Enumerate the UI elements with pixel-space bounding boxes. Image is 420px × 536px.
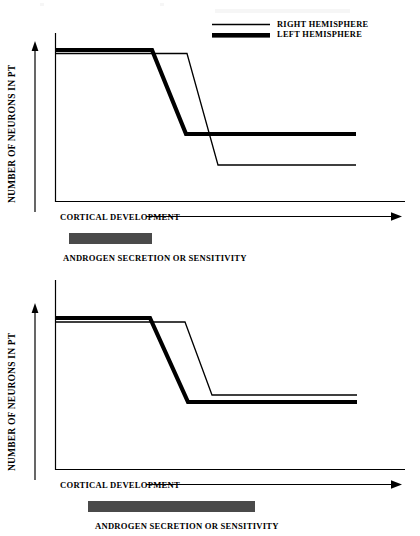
top-chart-svg bbox=[0, 0, 420, 268]
chart-panel-bottom: NUMBER OF NEURONS IN PT CORTICAL DEVELOP… bbox=[0, 268, 420, 536]
series-left-hemisphere-bottom bbox=[56, 318, 357, 402]
x-axis-label-top: CORTICAL DEVELOPMENT bbox=[60, 212, 180, 222]
y-axis-arrow bbox=[32, 41, 39, 212]
figure-root: NUMBER OF NEURONS IN PT CORTICAL DEVELOP… bbox=[0, 0, 420, 536]
bottom-chart-svg bbox=[0, 268, 420, 536]
cortical-development-arrow-bottom bbox=[146, 480, 402, 489]
legend-label-left-hemisphere: LEFT HEMISPHERE bbox=[277, 30, 362, 39]
legend-label-right-hemisphere: RIGHT HEMISPHERE bbox=[277, 20, 368, 29]
legend-swatch-left-hemisphere bbox=[212, 33, 270, 38]
series-right-hemisphere-top bbox=[56, 54, 356, 166]
androgen-bar-label-bottom: ANDROGEN SECRETION OR SENSITIVITY bbox=[95, 521, 279, 531]
y-axis-arrow bbox=[32, 303, 39, 480]
chart-panel-top: NUMBER OF NEURONS IN PT CORTICAL DEVELOP… bbox=[0, 0, 420, 268]
y-axis-label-top: NUMBER OF NEURONS IN PT bbox=[7, 65, 17, 203]
y-axis-label-bottom: NUMBER OF NEURONS IN PT bbox=[7, 333, 17, 471]
x-axis-label-bottom: CORTICAL DEVELOPMENT bbox=[60, 480, 180, 490]
androgen-exposure-bar-bottom bbox=[88, 501, 255, 512]
androgen-bar-label-top: ANDROGEN SECRETION OR SENSITIVITY bbox=[63, 253, 247, 263]
cortical-development-arrow-top bbox=[146, 212, 402, 221]
series-right-hemisphere-bottom bbox=[56, 322, 357, 395]
androgen-exposure-bar-top bbox=[69, 233, 152, 244]
